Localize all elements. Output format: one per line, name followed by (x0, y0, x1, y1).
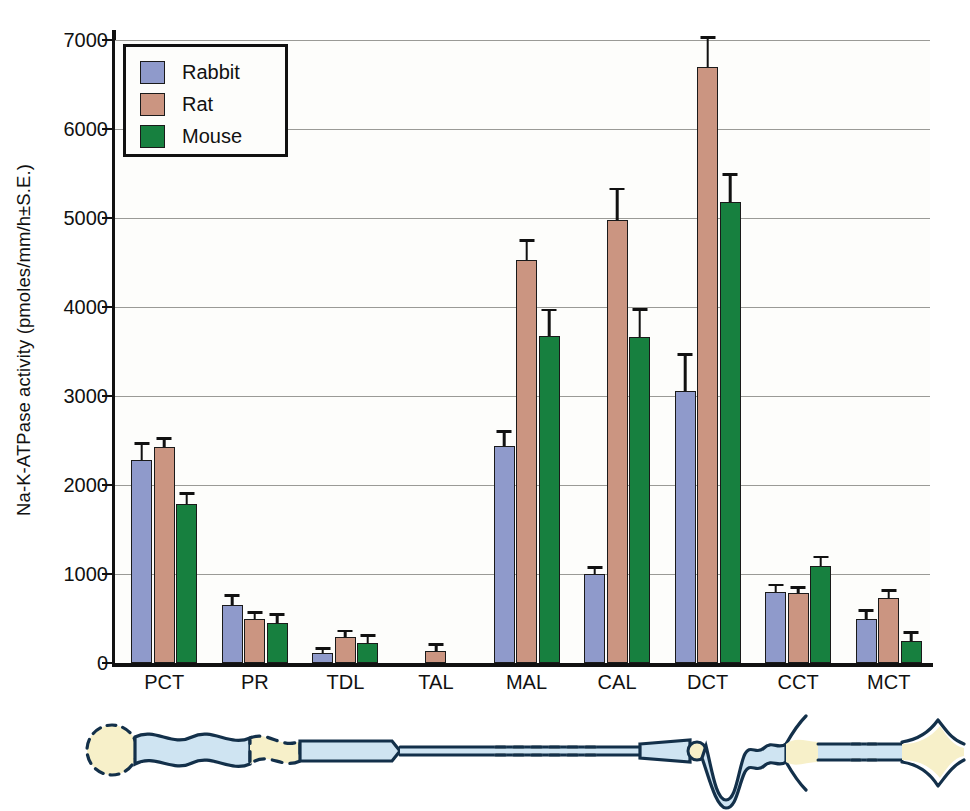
legend-item: Mouse (140, 121, 285, 151)
error-bar (254, 614, 257, 619)
bar-rabbit-pr (222, 605, 243, 663)
error-bar-cap (270, 613, 285, 616)
error-bar-cap (360, 634, 375, 637)
x-axis-tick-label: PCT (144, 671, 184, 694)
bar-group (312, 40, 378, 663)
bar-mouse-tdl (357, 643, 378, 663)
error-bar-cap (587, 566, 602, 569)
legend-item: Rat (140, 89, 285, 119)
bar-mouse-mal (539, 336, 560, 663)
legend-label: Rat (182, 94, 213, 114)
error-bar-cap (225, 594, 240, 597)
legend-item: Rabbit (140, 57, 285, 87)
y-axis-tick (102, 39, 115, 41)
y-axis-tick (102, 484, 115, 486)
error-bar (797, 589, 800, 593)
error-bar-cap (519, 239, 534, 242)
bar-rat-pct (154, 447, 175, 663)
error-bar (706, 39, 709, 67)
error-bar (910, 634, 913, 641)
y-axis-tick (102, 573, 115, 575)
x-axis-tick-label: CCT (778, 671, 819, 694)
error-bar-cap (723, 173, 738, 176)
bar-group (856, 40, 922, 663)
error-bar (231, 597, 234, 605)
error-bar-cap (768, 584, 783, 587)
legend-label: Rabbit (182, 62, 240, 82)
error-bar-cap (428, 643, 443, 646)
bar-rabbit-tdl (312, 653, 333, 663)
error-bar-cap (497, 430, 512, 433)
error-bar-cap (134, 442, 149, 445)
bar-mouse-cal (629, 337, 650, 663)
bar-group (765, 40, 831, 663)
bar-rat-pr (244, 619, 265, 663)
error-bar-cap (859, 609, 874, 612)
error-bar-cap (791, 586, 806, 589)
error-bar-cap (338, 630, 353, 633)
x-axis-line (112, 663, 933, 667)
error-bar (638, 311, 641, 338)
error-bar (322, 650, 325, 654)
error-bar (887, 592, 890, 598)
bar-rabbit-mal (494, 446, 515, 663)
error-bar-cap (179, 492, 194, 495)
error-bar-cap (610, 188, 625, 191)
bar-mouse-dct (720, 202, 741, 663)
error-bar-cap (881, 589, 896, 592)
error-bar (185, 495, 188, 504)
x-axis-tick-label: TDL (326, 671, 364, 694)
bar-group (584, 40, 650, 663)
y-axis-tick (102, 128, 115, 130)
error-bar (616, 190, 619, 219)
bar-rat-cal (607, 220, 628, 663)
y-axis-tick-labels: 01000200030004000500060007000 (0, 0, 108, 700)
legend-swatch (140, 61, 165, 84)
bar-rat-mal (516, 260, 537, 663)
legend: RabbitRatMouse (123, 44, 288, 157)
bar-group (494, 40, 560, 663)
bar-rabbit-cal (584, 574, 605, 663)
x-axis-tick-label: PR (241, 671, 269, 694)
bar-rat-tal (425, 651, 446, 663)
bar-rat-dct (697, 67, 718, 663)
bar-rat-cct (788, 593, 809, 663)
x-axis-tick-label: TAL (418, 671, 453, 694)
bar-group (403, 40, 469, 663)
error-bar (276, 616, 279, 623)
error-bar (729, 176, 732, 202)
error-bar (548, 311, 551, 336)
error-bar (684, 356, 687, 391)
error-bar-cap (700, 36, 715, 39)
bar-mouse-cct (810, 566, 831, 663)
x-axis-tick-label: MAL (506, 671, 547, 694)
legend-swatch (140, 93, 165, 116)
x-axis-tick-label: DCT (687, 671, 728, 694)
x-axis-tick-label: MCT (867, 671, 910, 694)
error-bar-cap (247, 611, 262, 614)
bar-mouse-mct (901, 641, 922, 663)
bar-rabbit-mct (856, 619, 877, 663)
error-bar (593, 569, 596, 574)
legend-swatch (140, 125, 165, 148)
bar-mouse-pr (267, 623, 288, 663)
error-bar-cap (157, 437, 172, 440)
error-bar (503, 433, 506, 446)
error-bar-cap (904, 631, 919, 634)
bar-rabbit-pct (131, 460, 152, 663)
error-bar (367, 637, 370, 642)
error-bar (163, 440, 166, 447)
error-bar (525, 242, 528, 260)
x-axis-tick-label: CAL (598, 671, 637, 694)
error-bar-cap (678, 353, 693, 356)
bar-rat-tdl (335, 637, 356, 663)
bar-rabbit-dct (675, 391, 696, 663)
y-axis-tick (102, 217, 115, 219)
error-bar (140, 445, 143, 460)
y-axis-tick (102, 306, 115, 308)
y-axis-tick (102, 662, 115, 664)
bar-rat-mct (878, 598, 899, 663)
error-bar (774, 586, 777, 591)
error-bar-cap (542, 309, 557, 312)
error-bar (819, 558, 822, 566)
